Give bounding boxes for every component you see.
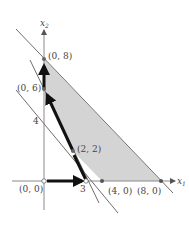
- point-4-0: [100, 179, 104, 183]
- tick-label-y-4: 4: [33, 116, 39, 126]
- x1-axis-label: x1: [177, 176, 186, 187]
- label-2-2: (2, 2): [77, 144, 101, 154]
- label-0-6: (0, 6): [17, 83, 41, 93]
- label-0-0: (0, 0): [19, 184, 43, 194]
- point-8-0: [159, 179, 163, 183]
- point-3-0: [84, 179, 88, 183]
- lp-diagram: x2 x1 4 3 (0, 8) (0, 6) (2, 2) (0, 0) (4…: [0, 0, 189, 225]
- label-0-8: (0, 8): [48, 51, 72, 61]
- x2-axis-label: x2: [40, 18, 49, 29]
- label-8-0: (8, 0): [137, 186, 161, 196]
- point-0-6: [42, 87, 46, 91]
- label-4-0: (4, 0): [108, 186, 132, 196]
- point-0-8: [42, 57, 46, 61]
- tick-label-x-3: 3: [80, 184, 86, 194]
- point-0-0: [42, 179, 46, 183]
- point-2-2: [71, 149, 75, 153]
